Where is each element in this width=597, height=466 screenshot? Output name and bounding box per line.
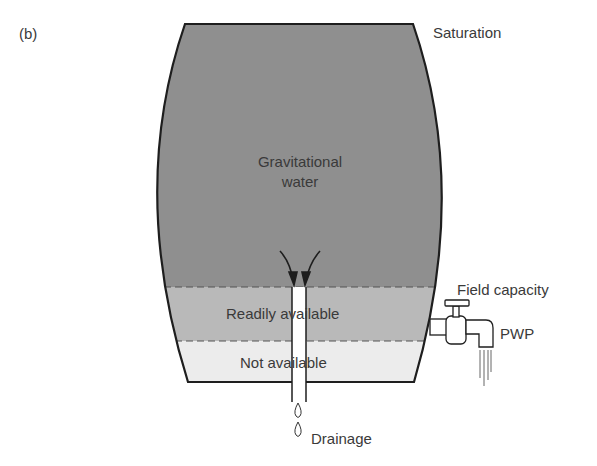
tap-water-stream — [480, 350, 491, 386]
panel-label: (b) — [19, 26, 37, 41]
field-capacity-label: Field capacity — [457, 282, 549, 297]
drainage-label: Drainage — [311, 431, 372, 446]
readily-available-label: Readily available — [226, 306, 339, 321]
not-available-label: Not available — [240, 355, 327, 370]
water-drop-icon — [295, 403, 301, 437]
barrel-diagram — [0, 0, 597, 466]
gravitational-water-line2: water — [240, 172, 360, 192]
gravitational-water-label: Gravitational water — [240, 152, 360, 192]
saturation-label: Saturation — [433, 25, 501, 40]
pwp-label: PWP — [500, 326, 534, 341]
tap-icon — [430, 300, 493, 347]
gravitational-water-line1: Gravitational — [240, 152, 360, 172]
